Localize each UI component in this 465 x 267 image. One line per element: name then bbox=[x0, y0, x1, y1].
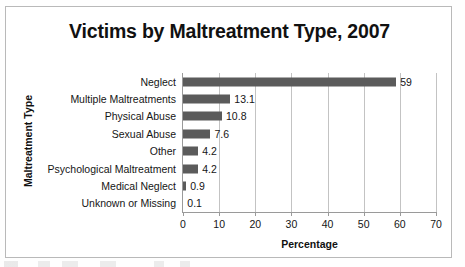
category-label: Multiple Maltreatments bbox=[70, 93, 176, 105]
category-label: Sexual Abuse bbox=[112, 128, 176, 140]
chart-category-row: Neglect59 bbox=[183, 73, 436, 90]
chart-category-row: Other4.2 bbox=[183, 143, 436, 160]
bar bbox=[183, 164, 198, 173]
x-tick-label: 50 bbox=[358, 218, 370, 230]
plot-area: Neglect59Multiple Maltreatments13.1Physi… bbox=[182, 73, 436, 213]
chart-category-row: Physical Abuse10.8 bbox=[183, 108, 436, 125]
bar-value-label: 4.2 bbox=[202, 145, 217, 157]
bar-value-label: 59 bbox=[400, 76, 412, 88]
gridline bbox=[436, 73, 437, 212]
bar bbox=[183, 181, 186, 190]
bar bbox=[183, 129, 210, 138]
chart-category-row: Unknown or Missing0.1 bbox=[183, 195, 436, 212]
x-tick-label: 30 bbox=[286, 218, 298, 230]
category-label: Neglect bbox=[140, 76, 176, 88]
chart-category-row: Medical Neglect0.9 bbox=[183, 177, 436, 194]
scan-artifact bbox=[4, 261, 244, 267]
x-tick-label: 20 bbox=[249, 218, 261, 230]
x-axis-title: Percentage bbox=[183, 238, 436, 250]
bar-value-label: 13.1 bbox=[234, 93, 254, 105]
x-tick-label: 10 bbox=[213, 218, 225, 230]
category-label: Unknown or Missing bbox=[81, 197, 176, 209]
category-label: Psychological Maltreatment bbox=[48, 163, 176, 175]
bar-value-label: 4.2 bbox=[202, 163, 217, 175]
x-tick-label: 70 bbox=[430, 218, 442, 230]
bar-value-label: 7.6 bbox=[214, 128, 229, 140]
bar-value-label: 0.1 bbox=[187, 197, 202, 209]
x-tick-mark bbox=[400, 212, 401, 216]
chart-category-row: Psychological Maltreatment4.2 bbox=[183, 160, 436, 177]
bar bbox=[183, 147, 198, 156]
category-label: Medical Neglect bbox=[101, 180, 176, 192]
x-tick-mark bbox=[183, 212, 184, 216]
x-tick-mark bbox=[364, 212, 365, 216]
bar-value-label: 10.8 bbox=[226, 110, 246, 122]
category-label: Other bbox=[150, 145, 176, 157]
x-tick-label: 60 bbox=[394, 218, 406, 230]
x-tick-label: 40 bbox=[322, 218, 334, 230]
bar bbox=[183, 112, 222, 121]
x-tick-mark bbox=[436, 212, 437, 216]
y-axis-title: Maltreatment Type bbox=[22, 71, 34, 211]
chart-category-row: Sexual Abuse7.6 bbox=[183, 125, 436, 142]
chart-frame: Victims by Maltreatment Type, 2007 Maltr… bbox=[5, 6, 452, 258]
bar-value-label: 0.9 bbox=[190, 180, 205, 192]
scanned-page: Victims by Maltreatment Type, 2007 Maltr… bbox=[0, 0, 465, 267]
bar bbox=[183, 95, 230, 104]
bar bbox=[183, 77, 396, 86]
chart-title: Victims by Maltreatment Type, 2007 bbox=[6, 20, 453, 43]
x-tick-mark bbox=[255, 212, 256, 216]
x-tick-mark bbox=[291, 212, 292, 216]
category-label: Physical Abuse bbox=[105, 110, 176, 122]
x-tick-mark bbox=[328, 212, 329, 216]
x-tick-mark bbox=[219, 212, 220, 216]
chart-category-row: Multiple Maltreatments13.1 bbox=[183, 90, 436, 107]
x-tick-label: 0 bbox=[180, 218, 186, 230]
